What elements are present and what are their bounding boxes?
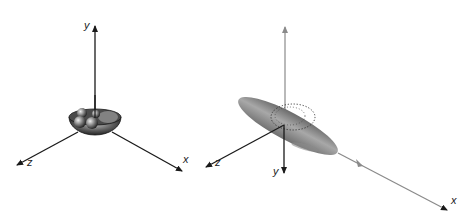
figure-canvas: [0, 0, 468, 222]
left-x-label: x: [183, 154, 189, 165]
left-y-label: y: [84, 20, 90, 31]
right-y-label: y: [273, 166, 279, 177]
sphere: [74, 116, 86, 128]
right-x-label: x: [451, 195, 457, 206]
left-x-axis: [112, 132, 182, 171]
sphere: [92, 110, 100, 118]
sphere: [86, 117, 98, 129]
left-z-label: z: [27, 157, 33, 168]
ellipsoid-shape: [232, 87, 344, 164]
right-x-axis: [338, 153, 447, 210]
left-panel: [17, 26, 182, 171]
right-panel: [206, 27, 447, 210]
right-z-label: z: [215, 157, 221, 168]
